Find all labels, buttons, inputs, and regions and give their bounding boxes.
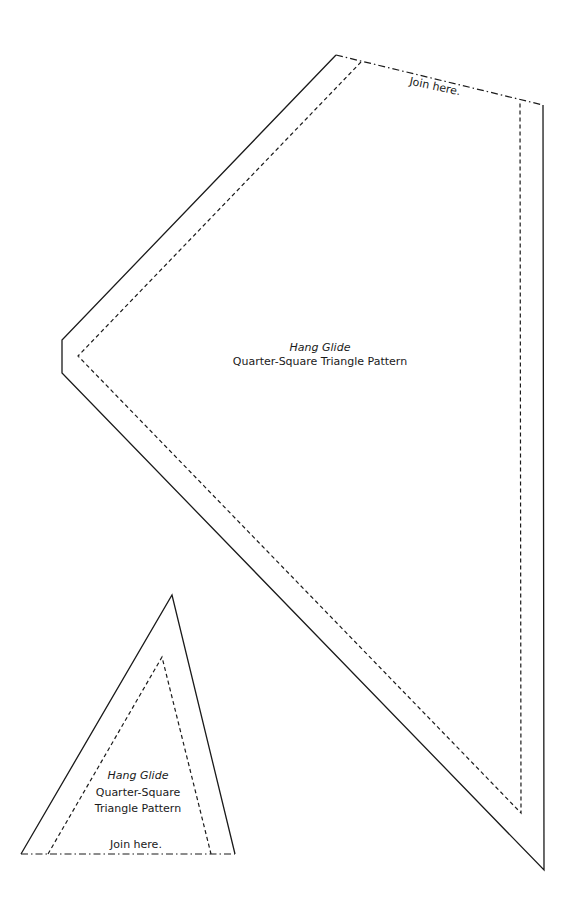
small-piece-seam-line	[48, 657, 211, 854]
large-piece-subtitle: Quarter-Square Triangle Pattern	[233, 355, 407, 368]
small-piece-cut-line	[21, 595, 235, 854]
small-piece-join-label: Join here.	[110, 838, 162, 851]
small-piece-title: Hang Glide	[108, 769, 169, 782]
pattern-drawing	[0, 0, 580, 911]
small-piece-subtitle-line1: Quarter-Square	[96, 786, 181, 799]
large-piece-title: Hang Glide	[290, 341, 351, 354]
large-piece-cut-line	[62, 55, 544, 870]
small-piece-subtitle-line2: Triangle Pattern	[95, 802, 181, 815]
large-piece-seam-line	[78, 62, 521, 813]
